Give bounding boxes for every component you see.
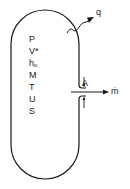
vessel-outline (11, 10, 79, 179)
heat-transfer-label: q (96, 8, 101, 17)
mass-flow-label: ṁ (111, 87, 119, 96)
enthalpy-subscript: o (34, 62, 37, 68)
state-var-pressure: P (29, 35, 35, 44)
heat-transfer-arrowhead (87, 17, 94, 23)
mass-flow-arrowhead (103, 90, 109, 95)
state-var-temperature: T (29, 83, 35, 92)
state-var-internal-energy: U (29, 95, 36, 104)
area-arrowhead-bottom (83, 97, 86, 101)
outlet-area-label: A (82, 79, 88, 88)
state-var-volume: V* (29, 47, 39, 56)
state-var-enthalpy: ho (29, 59, 37, 68)
state-var-entropy: S (29, 107, 35, 116)
state-var-mass: M (29, 71, 37, 80)
